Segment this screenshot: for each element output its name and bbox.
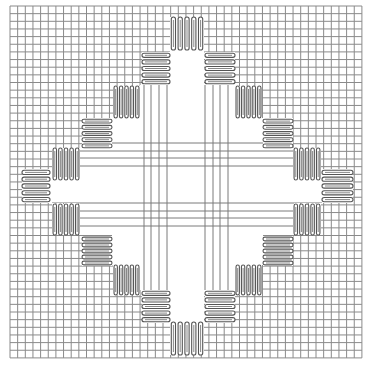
vertical-stitch-block — [170, 17, 204, 50]
vertical-stitch-block — [293, 148, 321, 180]
stitch-diagram — [0, 0, 373, 369]
vertical-stitch-block — [235, 265, 262, 295]
vertical-stitch-block — [113, 86, 140, 118]
horizontal-stitch-block — [82, 236, 112, 266]
vertical-stitch-block — [52, 204, 80, 235]
vertical-stitch-block — [235, 86, 262, 118]
horizontal-stitch-block — [142, 290, 170, 323]
horizontal-stitch-block — [142, 52, 170, 85]
vertical-stitch-block — [52, 148, 80, 180]
horizontal-stitch-block — [82, 118, 112, 149]
horizontal-stitch-block — [263, 118, 293, 149]
vertical-stitch-block — [293, 204, 321, 235]
horizontal-stitch-block — [205, 290, 235, 323]
vertical-stitch-block — [113, 265, 140, 295]
horizontal-stitch-block — [263, 236, 293, 266]
horizontal-stitch-block — [322, 169, 353, 203]
horizontal-stitch-block — [205, 52, 235, 85]
horizontal-stitch-block — [22, 169, 50, 203]
vertical-stitch-block — [170, 322, 204, 355]
